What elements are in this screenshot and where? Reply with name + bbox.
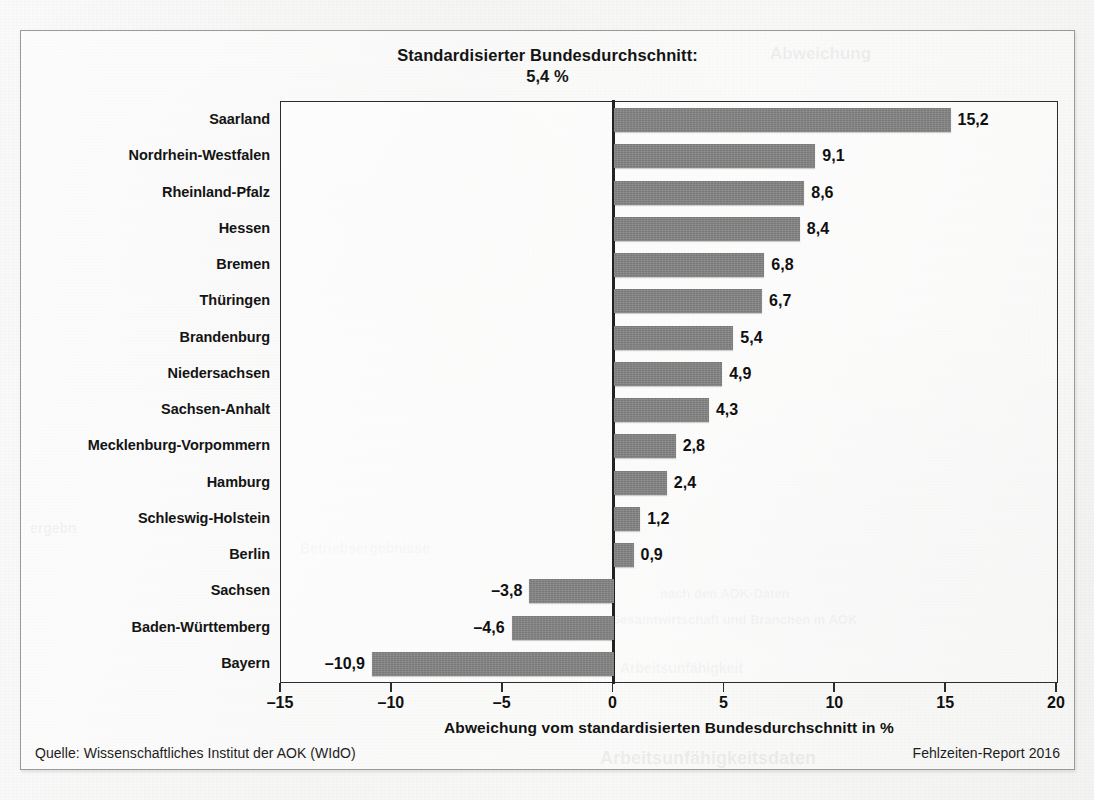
x-axis-title: Abweichung vom standardisierten Bundesdu… — [280, 719, 1058, 737]
bar-value-label: 6,8 — [771, 257, 793, 273]
bar-value-label: –3,8 — [491, 583, 522, 599]
category-label-hessen: Hessen — [219, 221, 270, 236]
category-label-bayern: Bayern — [221, 656, 270, 671]
bar-rheinland-pfalz[interactable] — [614, 181, 805, 205]
x-axis-tick — [723, 683, 725, 692]
plot-area: 15,29,18,68,46,86,75,44,94,32,82,41,20,9… — [280, 101, 1058, 683]
bar-value-label: 4,3 — [716, 402, 738, 418]
x-axis-tick — [501, 683, 503, 692]
category-label-sachsen: Sachsen — [211, 583, 270, 598]
x-axis-tick — [1055, 683, 1057, 692]
bar-value-label: 8,4 — [807, 221, 829, 237]
bar-th-ringen[interactable] — [614, 289, 763, 313]
bar-niedersachsen[interactable] — [614, 362, 723, 386]
bar-nordrhein-westfalen[interactable] — [614, 144, 816, 168]
bar-value-label: 9,1 — [822, 148, 844, 164]
bar-sachsen[interactable] — [529, 579, 613, 603]
source-note: Quelle: Wissenschaftliches Institut der … — [35, 745, 356, 761]
bar-value-label: 2,4 — [674, 475, 696, 491]
category-label-brandenburg: Brandenburg — [180, 330, 270, 345]
bar-value-label: 2,8 — [683, 438, 705, 454]
chart-footer: Quelle: Wissenschaftliches Institut der … — [35, 745, 1060, 761]
x-axis-tick-label: 15 — [936, 695, 954, 711]
x-axis-tick-label: –10 — [377, 695, 404, 711]
category-label-berlin: Berlin — [229, 547, 270, 562]
category-label-schleswig-holstein: Schleswig-Holstein — [138, 511, 270, 526]
report-note: Fehlzeiten-Report 2016 — [913, 745, 1060, 761]
bar-value-label: –4,6 — [473, 620, 504, 636]
x-axis-tick-label: –15 — [267, 695, 294, 711]
chart-figure-frame: Standardisierter Bundesdurchschnitt: 5,4… — [20, 30, 1075, 770]
bar-brandenburg[interactable] — [614, 326, 734, 350]
chart-title-line1: Standardisierter Bundesdurchschnitt: — [21, 45, 1074, 66]
bar-value-label: –10,9 — [325, 656, 365, 672]
x-axis-tick-label: 5 — [719, 695, 728, 711]
x-axis-tick-label: 10 — [825, 695, 843, 711]
bar-berlin[interactable] — [614, 543, 634, 567]
chart-title-line2: 5,4 % — [21, 66, 1074, 87]
category-label-sachsen-anhalt: Sachsen-Anhalt — [161, 402, 270, 417]
bar-hamburg[interactable] — [614, 471, 667, 495]
category-label-saarland: Saarland — [209, 112, 270, 127]
x-axis-tick — [833, 683, 835, 692]
x-axis-tick-label: –5 — [493, 695, 511, 711]
bar-bremen[interactable] — [614, 253, 765, 277]
x-axis-tick — [279, 683, 281, 692]
bar-mecklenburg-vorpommern[interactable] — [614, 434, 676, 458]
category-label-niedersachsen: Niedersachsen — [167, 366, 270, 381]
category-label-th-ringen: Thüringen — [200, 293, 270, 308]
category-label-baden-w-rttemberg: Baden-Württemberg — [131, 620, 270, 635]
x-axis-tick — [944, 683, 946, 692]
category-label-rheinland-pfalz: Rheinland-Pfalz — [162, 185, 270, 200]
category-label-bremen: Bremen — [216, 257, 270, 272]
bar-value-label: 8,6 — [811, 185, 833, 201]
bar-value-label: 6,7 — [769, 293, 791, 309]
bar-value-label: 5,4 — [740, 330, 762, 346]
category-label-mecklenburg-vorpommern: Mecklenburg-Vorpommern — [88, 438, 270, 453]
page-background: Abweichung ergebn Betriebsergebnisse nac… — [0, 0, 1094, 800]
x-axis-tick — [612, 683, 614, 692]
bar-value-label: 1,2 — [647, 511, 669, 527]
x-axis-tick-label: 0 — [608, 695, 617, 711]
category-axis-labels: SaarlandNordrhein-WestfalenRheinland-Pfa… — [21, 101, 270, 683]
bar-schleswig-holstein[interactable] — [614, 507, 641, 531]
bar-baden-w-rttemberg[interactable] — [512, 616, 614, 640]
category-label-hamburg: Hamburg — [207, 475, 270, 490]
bar-hessen[interactable] — [614, 217, 800, 241]
bar-bayern[interactable] — [372, 652, 614, 676]
x-axis-tick — [390, 683, 392, 692]
x-axis-tick-label: 20 — [1047, 695, 1065, 711]
bar-sachsen-anhalt[interactable] — [614, 398, 709, 422]
bar-value-label: 4,9 — [729, 366, 751, 382]
bar-saarland[interactable] — [614, 108, 951, 132]
bar-value-label: 15,2 — [958, 112, 989, 128]
category-label-nordrhein-westfalen: Nordrhein-Westfalen — [129, 148, 270, 163]
chart-header: Standardisierter Bundesdurchschnitt: 5,4… — [21, 45, 1074, 87]
bar-value-label: 0,9 — [641, 547, 663, 563]
